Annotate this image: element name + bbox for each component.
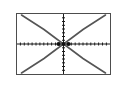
marked-point-right	[66, 42, 70, 46]
plot-canvas	[0, 0, 127, 88]
graph-figure: 8 -8 -12 12	[0, 0, 127, 88]
marked-point-left	[57, 42, 61, 46]
marked-point-origin	[62, 42, 66, 46]
marked-points-group	[57, 42, 71, 46]
